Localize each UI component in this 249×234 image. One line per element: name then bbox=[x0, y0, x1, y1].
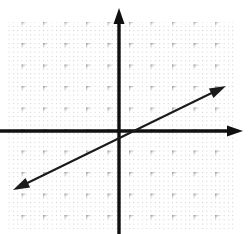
graph-canvas bbox=[0, 0, 249, 234]
coordinate-plane-graph bbox=[0, 0, 249, 234]
grid-major-dots bbox=[8, 22, 236, 229]
